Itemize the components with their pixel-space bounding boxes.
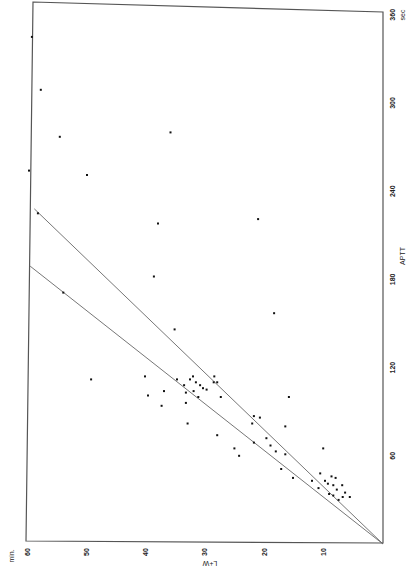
- data-point: [206, 389, 208, 391]
- x-tick-label: 10: [320, 548, 327, 556]
- data-point: [213, 381, 215, 383]
- data-point: [322, 447, 324, 449]
- data-point: [213, 375, 215, 377]
- data-point: [216, 381, 218, 383]
- y-tick-label: 300: [389, 97, 396, 109]
- x-axis-title: L+W: [202, 560, 217, 567]
- data-point: [187, 423, 189, 425]
- data-point: [284, 425, 286, 427]
- x-tick-label: 40: [142, 548, 149, 556]
- data-point: [216, 434, 218, 436]
- data-point: [328, 493, 330, 495]
- y-axis-ticks: 60120180240300360: [389, 9, 396, 460]
- data-point: [163, 390, 165, 392]
- y-tick-label: 120: [389, 362, 396, 374]
- data-point: [28, 170, 30, 172]
- data-point: [185, 402, 187, 404]
- data-point: [342, 496, 344, 498]
- data-point: [144, 375, 146, 377]
- lower-regression-line: [30, 266, 383, 544]
- data-point: [59, 136, 61, 138]
- data-point: [90, 378, 92, 380]
- data-point: [147, 395, 149, 397]
- data-point: [332, 495, 334, 497]
- data-points: [28, 36, 351, 501]
- data-point: [253, 415, 255, 417]
- data-point: [270, 445, 272, 447]
- y-tick-label: 180: [389, 273, 396, 285]
- y-tick-label: 360: [389, 9, 396, 21]
- data-point: [37, 212, 39, 214]
- data-point: [341, 484, 343, 486]
- data-point: [185, 392, 187, 394]
- data-point: [220, 396, 222, 398]
- data-point: [153, 276, 155, 278]
- data-point: [324, 480, 326, 482]
- data-point: [233, 447, 235, 449]
- data-point: [331, 475, 333, 477]
- data-point: [332, 484, 334, 486]
- data-point: [86, 174, 88, 176]
- x-tick-label: 20: [261, 548, 268, 556]
- data-point: [257, 218, 259, 220]
- data-point: [311, 480, 313, 482]
- upper-regression-line: [34, 209, 383, 544]
- data-point: [273, 312, 275, 314]
- x-axis-ticks: 102030405060: [24, 548, 327, 556]
- data-point: [338, 499, 340, 501]
- data-point: [170, 131, 172, 133]
- data-point: [327, 483, 329, 485]
- y-axis-unit: sec: [399, 9, 406, 20]
- data-point: [199, 384, 201, 386]
- x-tick-label: 50: [83, 548, 90, 556]
- data-point: [189, 378, 191, 380]
- data-point: [318, 487, 320, 489]
- data-point: [251, 423, 253, 425]
- data-point: [335, 477, 337, 479]
- data-point: [275, 450, 277, 452]
- data-point: [336, 489, 338, 491]
- data-point: [238, 455, 240, 457]
- data-point: [253, 442, 255, 444]
- data-point: [161, 405, 163, 407]
- data-point: [202, 387, 204, 389]
- data-point: [349, 496, 351, 498]
- data-point: [280, 468, 282, 470]
- data-point: [193, 390, 195, 392]
- x-tick-label: 30: [201, 548, 208, 556]
- data-point: [62, 292, 64, 294]
- data-point: [192, 375, 194, 377]
- data-point: [288, 396, 290, 398]
- data-point: [176, 378, 178, 380]
- data-point: [183, 384, 185, 386]
- y-axis-title: APTT: [399, 246, 406, 265]
- y-tick-label: 60: [389, 452, 396, 460]
- data-point: [40, 89, 42, 91]
- data-point: [195, 381, 197, 383]
- data-point: [157, 223, 159, 225]
- y-tick-label: 240: [389, 185, 396, 197]
- data-point: [319, 472, 321, 474]
- data-point: [344, 492, 346, 494]
- data-point: [174, 328, 176, 330]
- data-point: [284, 453, 286, 455]
- data-point: [197, 396, 199, 398]
- data-point: [265, 437, 267, 439]
- plot-frame: [26, 2, 383, 543]
- x-axis-unit: min.: [8, 549, 15, 562]
- data-point: [31, 36, 33, 38]
- x-tick-label: 60: [24, 548, 31, 556]
- scatter-plot: 102030405060 60120180240300360 min. L+W …: [0, 0, 412, 575]
- data-point: [259, 417, 261, 419]
- data-point: [292, 477, 294, 479]
